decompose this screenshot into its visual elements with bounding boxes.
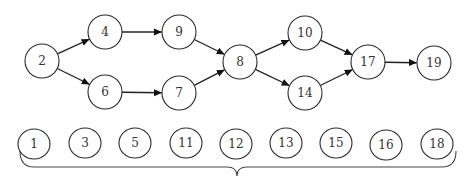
node-label: 4 bbox=[101, 25, 109, 39]
node-17: 17 bbox=[351, 45, 385, 79]
isolated-node-18: 18 bbox=[421, 129, 453, 159]
node-6: 6 bbox=[88, 75, 122, 109]
isolated-node-13: 13 bbox=[270, 128, 302, 158]
isolated-node-5: 5 bbox=[119, 128, 151, 158]
edge-10-to-17 bbox=[320, 40, 352, 55]
node-2: 2 bbox=[25, 44, 59, 78]
isolated-node-12: 12 bbox=[220, 129, 252, 159]
isolated-node-16: 16 bbox=[370, 130, 402, 160]
isolated-node-15: 15 bbox=[320, 128, 352, 158]
node-label: 9 bbox=[175, 25, 183, 39]
node-label: 19 bbox=[426, 56, 441, 70]
node-label: 7 bbox=[175, 86, 183, 100]
node-9: 9 bbox=[162, 15, 196, 49]
node-label: 14 bbox=[297, 86, 313, 100]
node-14: 14 bbox=[288, 76, 322, 110]
edge-8-to-10 bbox=[256, 40, 289, 55]
node-label: 13 bbox=[278, 136, 293, 150]
node-label: 12 bbox=[228, 137, 243, 151]
node-label: 18 bbox=[429, 137, 444, 151]
node-19: 19 bbox=[417, 46, 451, 80]
node-4: 4 bbox=[88, 15, 122, 49]
node-8: 8 bbox=[223, 45, 257, 79]
node-label: 17 bbox=[360, 55, 375, 69]
node-label: 15 bbox=[328, 136, 343, 150]
node-label: 1 bbox=[30, 137, 38, 151]
node-label: 8 bbox=[236, 55, 244, 69]
node-label: 11 bbox=[178, 136, 193, 150]
edge-9-to-8 bbox=[194, 40, 224, 55]
node-label: 5 bbox=[131, 136, 139, 150]
node-label: 6 bbox=[101, 85, 109, 99]
edge-7-to-8 bbox=[194, 70, 224, 85]
node-label: 10 bbox=[297, 26, 312, 40]
isolated-node-3: 3 bbox=[69, 128, 101, 158]
node-10: 10 bbox=[288, 16, 322, 50]
edge-14-to-17 bbox=[320, 70, 352, 86]
graph-diagram: 24697810141719 135111213151618 bbox=[0, 0, 472, 183]
edge-8-to-14 bbox=[255, 69, 289, 85]
node-7: 7 bbox=[162, 76, 196, 110]
node-label: 3 bbox=[81, 136, 89, 150]
edge-6-to-7 bbox=[122, 92, 162, 93]
node-label: 16 bbox=[378, 138, 393, 152]
isolated-node-1: 1 bbox=[18, 129, 50, 159]
node-label: 2 bbox=[38, 54, 46, 68]
isolated-node-11: 11 bbox=[170, 128, 202, 158]
edge-2-to-6 bbox=[57, 69, 89, 85]
isolated-nodes-layer: 135111213151618 bbox=[18, 128, 453, 160]
edge-2-to-4 bbox=[57, 39, 89, 54]
